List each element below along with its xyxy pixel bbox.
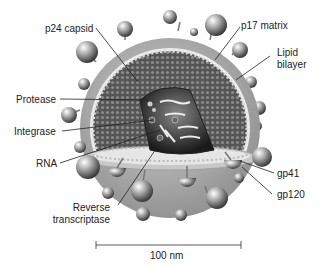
hiv-virion-diagram: p24 capsid p17 matrix Lipid bilayer Prot… [0,0,320,266]
label-integrase: Integrase [14,126,56,137]
label-protease: Protease [16,94,56,105]
label-gp41: gp41 [277,168,299,179]
label-rna: RNA [36,158,57,169]
scale-bar-label: 100 nm [150,250,183,261]
scale-bar [96,241,241,249]
label-p17-matrix: p17 matrix [241,20,288,31]
label-gp120: gp120 [277,189,305,200]
label-lipid-line2: bilayer [277,59,306,70]
label-p24-capsid: p24 capsid [45,23,93,34]
label-rt-line2: transcriptase [40,214,110,225]
label-rt-line1: Reverse [50,202,110,213]
label-lipid-line1: Lipid [277,47,298,58]
